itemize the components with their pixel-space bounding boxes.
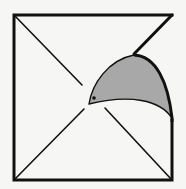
diagram-canvas: Square with diagonals; top-right corner … bbox=[0, 0, 186, 189]
folded-square-diagram bbox=[0, 0, 186, 189]
diagonal-bottom-left bbox=[15, 109, 84, 179]
flap-tip-dot bbox=[92, 96, 96, 100]
diagonal-bottom-right bbox=[105, 108, 171, 179]
diagonal-top-left bbox=[15, 16, 82, 85]
fold-crease-line bbox=[134, 15, 172, 54]
folded-flap bbox=[89, 55, 172, 118]
